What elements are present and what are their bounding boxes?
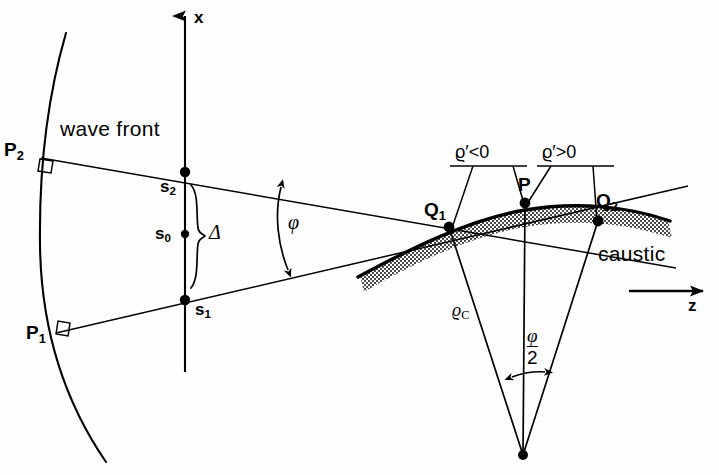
point-s0 xyxy=(181,230,189,238)
phi-half-angle-arc xyxy=(512,372,545,377)
delta-brace xyxy=(191,185,205,288)
point-label-s0: s0 xyxy=(155,225,171,245)
right-angle-marker-p1 xyxy=(56,321,70,336)
wave-front-label: wave front xyxy=(60,118,160,139)
node-dots xyxy=(180,167,604,305)
point-label-s1: s1 xyxy=(195,301,211,321)
phi-half-denominator: 2 xyxy=(527,346,538,369)
phi-half-label: φ 2 xyxy=(527,326,538,369)
right-angle-marker-p2 xyxy=(38,159,53,173)
point-s2 xyxy=(180,167,190,177)
point-label-p: P xyxy=(518,175,531,194)
caustic-diagram-figure: x z wave front caustic P2 P1 s2 s0 s1 Q1… xyxy=(0,0,719,475)
caustic-label: caustic xyxy=(598,243,665,264)
lower-ray xyxy=(56,186,688,333)
point-q1 xyxy=(444,222,455,233)
centre-of-curvature-point xyxy=(518,450,528,460)
point-label-q2: Q2 xyxy=(596,191,618,214)
diagram-vector-layer xyxy=(0,0,719,475)
rho-c-label: ϱC xyxy=(452,301,469,322)
point-label-s2: s2 xyxy=(160,178,176,198)
phi-label: φ xyxy=(288,212,299,232)
wave-front-arc xyxy=(40,33,106,462)
radius-to-q1 xyxy=(449,227,523,455)
x-axis-label: x xyxy=(194,9,203,26)
point-q2 xyxy=(593,216,604,227)
delta-label: Δ xyxy=(209,222,221,242)
point-p xyxy=(520,198,531,209)
point-s1 xyxy=(180,295,190,305)
rho-prime-positive-label: ϱ′>0 xyxy=(542,143,576,161)
point-label-q1: Q1 xyxy=(424,200,446,223)
z-axis-label: z xyxy=(688,297,697,314)
phi-half-numerator: φ xyxy=(527,326,538,346)
rho-prime-negative-label: ϱ′<0 xyxy=(455,143,489,161)
point-label-p1: P1 xyxy=(26,323,46,346)
point-label-p2: P2 xyxy=(4,140,24,163)
